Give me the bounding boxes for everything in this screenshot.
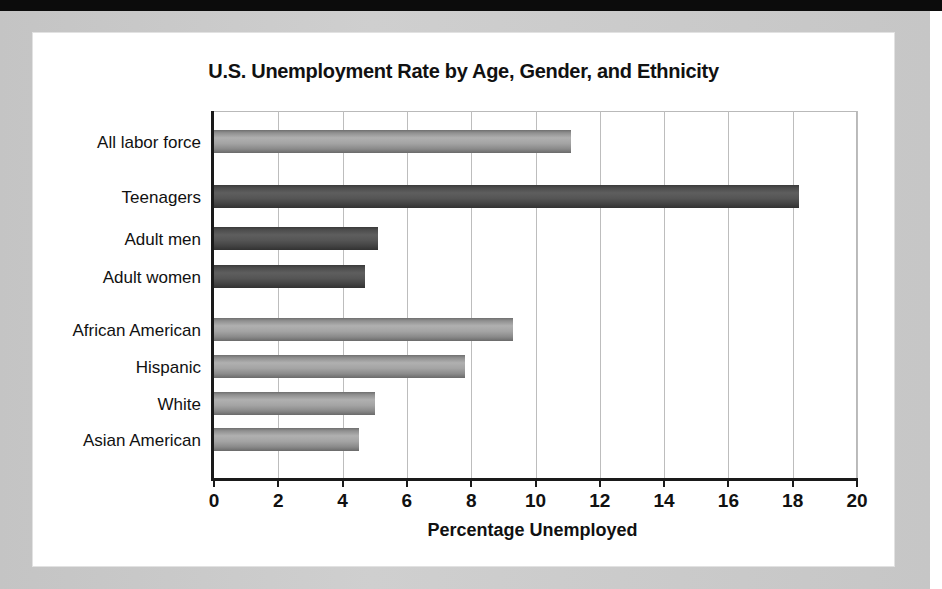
- bar-adult-men: [214, 227, 378, 250]
- x-tick-mark-4: [342, 478, 344, 487]
- category-label-adult-men: Adult men: [124, 231, 201, 248]
- gridline-4: [343, 111, 344, 478]
- x-tick-label-12: 12: [580, 490, 620, 512]
- x-tick-mark-12: [599, 478, 601, 487]
- gridline-20: [857, 111, 858, 478]
- category-label-white: White: [158, 396, 201, 413]
- gridline-8: [471, 111, 472, 478]
- bar-hispanic: [214, 355, 465, 378]
- x-tick-mark-14: [663, 478, 665, 487]
- screenshot-root: U.S. Unemployment Rate by Age, Gender, a…: [0, 0, 942, 589]
- gridline-10: [536, 111, 537, 478]
- figure-card: U.S. Unemployment Rate by Age, Gender, a…: [33, 33, 894, 566]
- gridline-12: [600, 111, 601, 478]
- plot-area: 02468101214161820: [211, 111, 857, 481]
- bar-teenagers: [214, 185, 799, 208]
- x-tick-mark-2: [277, 478, 279, 487]
- x-tick-mark-8: [470, 478, 472, 487]
- bar-all-labor-force: [214, 130, 571, 153]
- x-tick-mark-20: [856, 478, 858, 487]
- gridline-16: [728, 111, 729, 478]
- gridline-6: [407, 111, 408, 478]
- x-tick-label-14: 14: [644, 490, 684, 512]
- category-label-hispanic: Hispanic: [136, 359, 201, 376]
- x-tick-label-0: 0: [194, 490, 234, 512]
- x-axis-title: Percentage Unemployed: [211, 520, 854, 541]
- x-tick-label-16: 16: [708, 490, 748, 512]
- x-tick-label-8: 8: [451, 490, 491, 512]
- gridline-18: [793, 111, 794, 478]
- gridline-2: [278, 111, 279, 478]
- x-tick-label-10: 10: [516, 490, 556, 512]
- chart-title: U.S. Unemployment Rate by Age, Gender, a…: [33, 60, 894, 83]
- x-tick-label-4: 4: [323, 490, 363, 512]
- category-label-teenagers: Teenagers: [122, 189, 201, 206]
- x-tick-mark-6: [406, 478, 408, 487]
- category-label-adult-women: Adult women: [103, 269, 201, 286]
- x-tick-label-20: 20: [837, 490, 877, 512]
- x-tick-mark-10: [535, 478, 537, 487]
- top-black-strip: [0, 0, 942, 11]
- x-tick-label-18: 18: [773, 490, 813, 512]
- x-tick-mark-0: [213, 478, 215, 487]
- x-tick-mark-18: [792, 478, 794, 487]
- category-label-layer: All labor forceTeenagersAdult menAdult w…: [33, 111, 201, 478]
- bar-african-american: [214, 318, 513, 341]
- bar-asian-american: [214, 428, 359, 451]
- category-label-african-american: African American: [73, 322, 202, 339]
- category-label-all-labor-force: All labor force: [97, 134, 201, 151]
- gridline-14: [664, 111, 665, 478]
- x-tick-label-2: 2: [258, 490, 298, 512]
- bar-adult-women: [214, 265, 365, 288]
- page-frame-right-edge: [930, 11, 942, 589]
- x-tick-label-6: 6: [387, 490, 427, 512]
- category-label-asian-american: Asian American: [83, 432, 201, 449]
- x-tick-mark-16: [727, 478, 729, 487]
- bar-white: [214, 392, 375, 415]
